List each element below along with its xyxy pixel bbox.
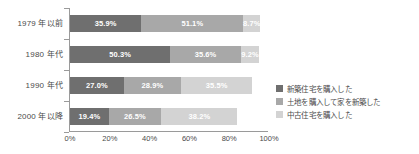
- bar-value-label: 26.5%: [124, 112, 146, 121]
- bar-value-label: 8.7%: [243, 19, 261, 28]
- bar-track: 19.4%26.5%38.2%: [70, 108, 269, 125]
- chart-row: 1980 年代50.3%35.6%9.2%: [0, 46, 419, 63]
- bar-value-label: 35.6%: [195, 50, 217, 59]
- category-label: 1979 年以前: [0, 15, 63, 32]
- bar-segment: 26.5%: [109, 108, 162, 125]
- bar-value-label: 35.5%: [206, 81, 228, 90]
- legend-item: 中古住宅を購入した: [276, 108, 381, 120]
- y-axis-tick: [64, 101, 69, 102]
- legend-label: 新築住宅を購入した: [287, 83, 352, 94]
- bar-segment: 38.2%: [161, 108, 237, 125]
- bar-value-label: 19.4%: [78, 112, 100, 121]
- bar-track: 50.3%35.6%9.2%: [70, 46, 269, 63]
- x-axis-tick-label: 100%: [259, 134, 278, 143]
- bar-segment: 35.9%: [70, 15, 141, 32]
- bar-value-label: 28.9%: [142, 81, 164, 90]
- legend-label: 中古住宅を購入した: [287, 109, 352, 120]
- x-axis-tick-label: 20%: [102, 134, 117, 143]
- category-label: 2000 年以降: [0, 108, 63, 125]
- bar-value-label: 9.2%: [241, 50, 259, 59]
- category-label: 1990 年代: [0, 77, 63, 94]
- bar-track: 27.0%28.9%35.5%: [70, 77, 269, 94]
- bar-track: 35.9%51.1%8.7%: [70, 15, 269, 32]
- chart-row: 1979 年以前35.9%51.1%8.7%: [0, 15, 419, 32]
- legend-item: 土地を購入して家を新築した: [276, 95, 381, 107]
- x-axis-tick-label: 40%: [142, 134, 157, 143]
- bar-segment: 8.7%: [243, 15, 260, 32]
- y-axis-tick: [64, 8, 69, 9]
- bar-segment: 35.5%: [181, 77, 252, 94]
- bar-value-label: 38.2%: [188, 112, 210, 121]
- bar-value-label: 27.0%: [86, 81, 108, 90]
- bar-segment: 28.9%: [124, 77, 182, 94]
- legend-swatch-icon: [276, 98, 283, 105]
- bar-segment: 27.0%: [70, 77, 124, 94]
- bar-segment: 19.4%: [70, 108, 109, 125]
- bar-value-label: 35.9%: [95, 19, 117, 28]
- x-axis-tick-label: 80%: [222, 134, 237, 143]
- bar-segment: 50.3%: [70, 46, 170, 63]
- x-axis-line: [69, 131, 268, 132]
- bar-value-label: 51.1%: [181, 19, 203, 28]
- bar-segment: 9.2%: [241, 46, 259, 63]
- category-label: 1980 年代: [0, 46, 63, 63]
- legend-swatch-icon: [276, 85, 283, 92]
- bar-value-label: 50.3%: [109, 50, 131, 59]
- legend-swatch-icon: [276, 111, 283, 118]
- y-axis-tick: [64, 39, 69, 40]
- x-axis-tick-label: 0%: [65, 134, 76, 143]
- legend-label: 土地を購入して家を新築した: [287, 96, 381, 107]
- stacked-bar-chart: 1979 年以前35.9%51.1%8.7%1980 年代50.3%35.6%9…: [0, 0, 419, 154]
- bar-segment: 51.1%: [141, 15, 243, 32]
- x-axis-tick-label: 60%: [182, 134, 197, 143]
- bar-segment: 35.6%: [170, 46, 241, 63]
- y-axis-tick: [64, 132, 69, 133]
- chart-legend: 新築住宅を購入した土地を購入して家を新築した中古住宅を購入した: [276, 82, 381, 121]
- y-axis-tick: [64, 70, 69, 71]
- legend-item: 新築住宅を購入した: [276, 82, 381, 94]
